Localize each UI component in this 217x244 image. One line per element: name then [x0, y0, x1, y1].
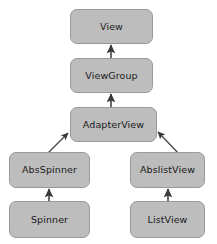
- node-spinner[interactable]: Spinner: [9, 201, 90, 238]
- node-adapterview[interactable]: AdapterView: [70, 107, 157, 142]
- node-abslistview-label: AbslistView: [140, 165, 195, 175]
- node-listview[interactable]: ListView: [130, 201, 205, 238]
- node-abslistview[interactable]: AbslistView: [130, 152, 205, 188]
- node-spinner-label: Spinner: [31, 215, 68, 225]
- node-viewgroup[interactable]: ViewGroup: [70, 58, 153, 93]
- node-view[interactable]: View: [70, 9, 153, 44]
- node-absspinner[interactable]: AbsSpinner: [9, 152, 90, 188]
- node-viewgroup-label: ViewGroup: [85, 71, 137, 81]
- node-absspinner-label: AbsSpinner: [22, 165, 77, 175]
- node-listview-label: ListView: [148, 215, 188, 225]
- node-view-label: View: [100, 22, 123, 32]
- node-adapterview-label: AdapterView: [83, 120, 144, 130]
- class-hierarchy-diagram: View ViewGroup AdapterView AbsSpinner Ab…: [0, 0, 217, 244]
